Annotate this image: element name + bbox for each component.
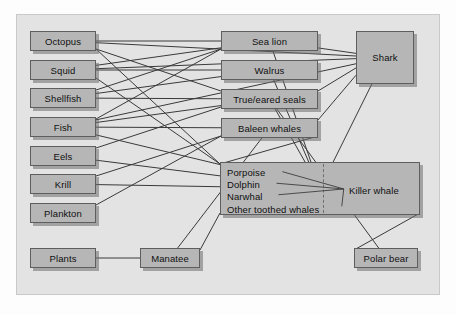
edge-true_eared_seals-to-shark [318, 68, 356, 91]
node-krill[interactable]: Krill [30, 174, 96, 194]
node-label: Krill [55, 179, 71, 190]
edge-eels-to-toothed_whales [96, 160, 220, 176]
node-label: Baleen whales [238, 123, 301, 134]
node-sea-lion[interactable]: Sea lion [221, 31, 318, 51]
node-walrus[interactable]: Walrus [221, 60, 318, 80]
node-label: Sea lion [252, 36, 287, 47]
node-baleen-whales[interactable]: Baleen whales [221, 118, 318, 138]
node-true-eared-seals[interactable]: True/eared seals [221, 89, 318, 109]
node-label: Plants [49, 253, 76, 264]
food-web-diagram: Octopus Squid Shellfish Fish Eels Krill … [0, 0, 456, 315]
edge-baleen_whales-to-shark [318, 75, 356, 120]
node-polar-bear[interactable]: Polar bear [354, 248, 418, 268]
node-label: Shark [372, 52, 397, 63]
node-squid[interactable]: Squid [30, 60, 96, 80]
edge-shellfish-to-true_eared_seals [96, 98, 221, 99]
node-label: Walrus [255, 65, 285, 76]
node-label: Plankton [44, 208, 82, 219]
edge-krill-to-toothed_whales [96, 185, 220, 187]
node-plankton[interactable]: Plankton [30, 203, 96, 223]
edge-sea_lion-to-shark [318, 48, 356, 53]
node-toothed-whales-group[interactable]: PorpoiseDolphinNarwhalOther toothed whal… [220, 162, 420, 215]
node-label: Squid [51, 65, 76, 76]
node-shark[interactable]: Shark [356, 31, 414, 84]
node-label: Fish [54, 122, 72, 133]
edge-fish-to-toothed_whales [96, 135, 220, 165]
node-label: Eels [54, 151, 73, 162]
node-octopus[interactable]: Octopus [30, 31, 96, 51]
node-label: Shellfish [45, 93, 82, 104]
node-eels[interactable]: Eels [30, 146, 96, 166]
group-edge-layer [221, 163, 419, 214]
edge-squid-to-sea_lion [96, 48, 221, 66]
node-fish[interactable]: Fish [30, 117, 96, 137]
node-label: Polar bear [364, 253, 409, 264]
node-manatee[interactable]: Manatee [140, 248, 200, 268]
node-label: Octopus [45, 36, 81, 47]
node-label: True/eared seals [233, 94, 306, 105]
node-plants[interactable]: Plants [30, 248, 96, 268]
node-label: Manatee [151, 253, 189, 264]
node-shellfish[interactable]: Shellfish [30, 88, 96, 108]
edge-manatee-to-toothed_whales [200, 213, 220, 250]
edge-toothed_whales-to-polar_bear [354, 213, 420, 250]
